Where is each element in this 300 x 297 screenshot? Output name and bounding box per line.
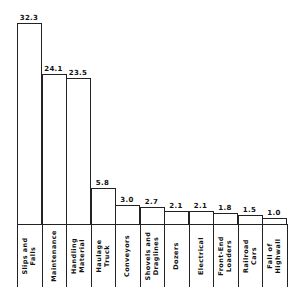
category-label-line: Maintenance [50, 226, 58, 286]
value-label: 1.8 [213, 204, 237, 212]
bar [17, 23, 42, 224]
category-label-line: Material [78, 226, 86, 286]
category-divider [238, 224, 239, 287]
value-label: 32.3 [17, 14, 41, 22]
category-divider [287, 224, 288, 287]
category-divider [66, 224, 67, 287]
value-label: 5.8 [91, 179, 115, 187]
bar [115, 205, 140, 224]
category-label-line: Shovels and [144, 226, 152, 286]
category-label-line: Loaders [225, 226, 233, 286]
bar [238, 215, 263, 224]
category-label-line: Slips and [21, 226, 29, 286]
category-label: Conveyors [115, 226, 139, 286]
bar [189, 211, 214, 224]
category-label-line: Dozers [172, 226, 180, 286]
category-divider [189, 224, 190, 287]
category-label: Front-EndLoaders [213, 226, 237, 286]
category-label-line: Front-End [217, 226, 225, 286]
category-divider [262, 224, 263, 287]
category-label: Fall ofHighwall [262, 226, 286, 286]
category-label: HaulageTruck [91, 226, 115, 286]
value-label: 23.5 [66, 69, 90, 77]
category-divider [17, 224, 18, 287]
category-divider [42, 224, 43, 287]
category-divider [115, 224, 116, 287]
category-label: Shovels andDraglines [140, 226, 164, 286]
category-label-line: Draglines [152, 226, 160, 286]
value-label: 24.1 [42, 65, 66, 73]
value-label: 3.0 [115, 196, 139, 204]
category-label: RailroadCars [238, 226, 262, 286]
baseline-axis [17, 224, 287, 225]
category-label: Maintenance [42, 226, 66, 286]
category-label-line: Haulage [95, 226, 103, 286]
value-label: 1.5 [238, 206, 262, 214]
category-label-line: Electrical [197, 226, 205, 286]
category-label: HandlingMaterial [66, 226, 90, 286]
bar [42, 74, 67, 224]
category-label-line: Falls [29, 226, 37, 286]
bar [91, 188, 116, 224]
category-divider [91, 224, 92, 287]
bar [66, 78, 91, 224]
bar [262, 218, 287, 224]
category-divider [164, 224, 165, 287]
category-label-line: Fall of [266, 226, 274, 286]
value-label: 2.1 [189, 202, 213, 210]
category-label: Dozers [164, 226, 188, 286]
category-label-line: Railroad [242, 226, 250, 286]
category-divider [140, 224, 141, 287]
category-label-line: Conveyors [123, 226, 131, 286]
bar [164, 211, 189, 224]
value-label: 2.7 [140, 198, 164, 206]
value-label: 2.1 [164, 202, 188, 210]
category-divider [213, 224, 214, 287]
value-label: 1.0 [262, 209, 286, 217]
bar [140, 207, 165, 224]
category-label-line: Highwall [274, 226, 282, 286]
bar [213, 213, 238, 224]
category-label: Slips andFalls [17, 226, 41, 286]
category-label: Electrical [189, 226, 213, 286]
category-label-line: Truck [103, 226, 111, 286]
category-label-line: Handling [70, 226, 78, 286]
category-label-line: Cars [250, 226, 258, 286]
bar-chart: 32.3Slips andFalls24.1Maintenance23.5Han… [0, 0, 300, 297]
